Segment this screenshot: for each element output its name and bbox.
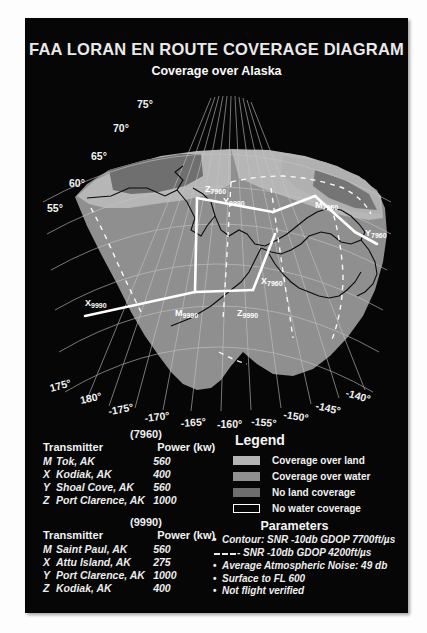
map-svg: 75° 70° 65° 60° 55° 175° 180° -175° -170… <box>25 84 408 434</box>
table-header-row: Transmitter Power (kw) <box>43 441 221 454</box>
table-row: Z Port Clarence, AK 1000 <box>43 493 221 506</box>
legend-label: No water coverage <box>272 503 361 514</box>
legend-label: No land coverage <box>272 487 355 498</box>
lat-label: 70° <box>113 122 129 134</box>
table-row: X Kodiak, AK 400 <box>43 467 221 480</box>
legend-item-no-water-coverage: No water coverage <box>233 503 408 514</box>
tx-name: Saint Paul, AK <box>56 542 153 555</box>
tx-code: Z <box>43 581 56 594</box>
lon-label: -165° <box>180 415 206 429</box>
legend-swatch <box>233 472 260 481</box>
page-title: FAA LORAN EN ROUTE COVERAGE DIAGRAM <box>25 40 408 59</box>
tx-name: Kodiak, AK <box>56 467 153 480</box>
parameter-item: • Contour: SNR -10db GDOP 7700ft/µs <box>213 534 408 545</box>
info-section: (7960) Transmitter Power (kw) M Tok, AK … <box>25 428 408 613</box>
tx-code: Y <box>43 480 56 493</box>
table-header-row: Transmitter Power (kw) <box>43 529 221 542</box>
table-row: Z Kodiak, AK 400 <box>43 581 221 594</box>
table-row: Y Port Clarence, AK 1000 <box>43 568 221 581</box>
tx-code: Z <box>43 493 56 506</box>
col-header-transmitter: Transmitter <box>43 529 153 542</box>
parameter-item: • Average Atmospheric Noise: 49 db <box>213 560 408 571</box>
lat-label: 65° <box>91 150 107 162</box>
chain-gri-9990: (9990) <box>43 516 235 528</box>
legend-title: Legend <box>235 432 408 448</box>
parameters-title: Parameters <box>211 519 408 533</box>
tx-name: Port Clarence, AK <box>56 493 153 506</box>
tx-code: Y <box>43 568 56 581</box>
bullet-icon: • <box>213 534 222 545</box>
legend-item-no-land-coverage: No land coverage <box>233 487 408 498</box>
tx-code: M <box>43 454 56 467</box>
tx-name: Shoal Cove, AK <box>56 480 153 493</box>
legend-swatch <box>233 504 260 513</box>
legend-swatch <box>233 456 260 465</box>
table-row: X Attu Island, AK 275 <box>43 555 221 568</box>
dashed-line-icon <box>213 547 237 559</box>
legend-and-parameters: Legend Coverage over land Coverage over … <box>211 428 408 598</box>
legend-label: Coverage over land <box>272 455 365 466</box>
chain-table-7960: Transmitter Power (kw) M Tok, AK 560 X K… <box>43 441 221 506</box>
tx-code: M <box>43 542 56 555</box>
tx-name: Tok, AK <box>56 454 153 467</box>
parameter-text: Not flight verified <box>222 585 304 596</box>
legend-swatch <box>233 488 260 497</box>
legend-item-coverage-over-water: Coverage over water <box>233 471 408 482</box>
parameter-item: • Surface to FL 600 <box>213 573 408 584</box>
chain-gri-7960: (7960) <box>43 428 235 440</box>
legend-item-coverage-over-land: Coverage over land <box>233 455 408 466</box>
lat-label: 55° <box>47 202 63 214</box>
tx-code: X <box>43 467 56 480</box>
table-row: M Saint Paul, AK 560 <box>43 542 221 555</box>
coverage-map: 75° 70° 65° 60° 55° 175° 180° -175° -170… <box>25 84 408 434</box>
table-spacer <box>43 506 235 516</box>
parameter-item: - SNR -10db GDOP 4200ft/µs <box>213 547 408 559</box>
parameter-text: Contour: SNR -10db GDOP 7700ft/µs <box>222 534 395 545</box>
tx-name: Port Clarence, AK <box>56 568 153 581</box>
tx-name: Kodiak, AK <box>56 581 153 594</box>
bullet-icon: • <box>213 573 222 584</box>
bullet-icon: • <box>213 585 222 596</box>
tx-code: X <box>43 555 56 568</box>
chain-table-9990: Transmitter Power (kw) M Saint Paul, AK … <box>43 529 221 594</box>
parameter-text: Average Atmospheric Noise: 49 db <box>222 560 387 571</box>
table-row: M Tok, AK 560 <box>43 454 221 467</box>
lat-label: 60° <box>69 177 85 189</box>
bullet-icon: • <box>213 560 222 571</box>
legend-label: Coverage over water <box>272 471 370 482</box>
transmitter-tables: (7960) Transmitter Power (kw) M Tok, AK … <box>43 428 235 594</box>
page-subtitle: Coverage over Alaska <box>25 64 408 78</box>
parameter-text: - SNR -10db GDOP 4200ft/µs <box>237 547 371 558</box>
table-row: Y Shoal Cove, AK 560 <box>43 480 221 493</box>
lat-label: 75° <box>137 98 153 110</box>
col-header-transmitter: Transmitter <box>43 441 153 454</box>
parameter-text: Surface to FL 600 <box>222 573 305 584</box>
coverage-diagram-poster: FAA LORAN EN ROUTE COVERAGE DIAGRAM Cove… <box>25 18 408 613</box>
tx-name: Attu Island, AK <box>56 555 153 568</box>
parameter-item: • Not flight verified <box>213 585 408 596</box>
